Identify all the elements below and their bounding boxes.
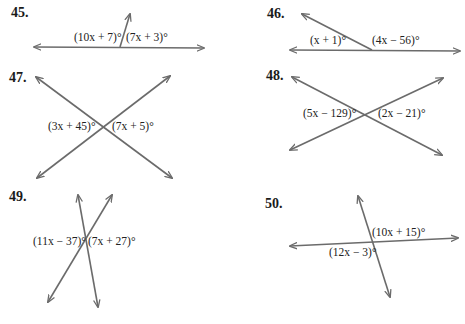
problem-number-49: 49.	[9, 189, 27, 205]
angle-label-46-left: (x + 1)°	[310, 34, 346, 46]
line-45-horizontal	[34, 47, 204, 48]
angle-label-45-right: (7x + 3)°	[126, 31, 168, 43]
figure-49	[48, 195, 112, 307]
angle-label-47-right: (7x + 5)°	[112, 120, 154, 132]
angle-label-48-right: (2x − 21)°	[378, 107, 426, 119]
problem-number-48: 48.	[266, 68, 284, 84]
angle-label-46-right: (4x − 56)°	[372, 34, 420, 46]
angle-label-49-right: (7x + 27)°	[88, 235, 136, 247]
line-49-a	[78, 195, 98, 307]
angle-label-50-lower: (12x − 3)°	[329, 246, 377, 258]
problem-number-45: 45.	[11, 5, 29, 21]
problem-number-46: 46.	[267, 6, 285, 22]
problem-number-50: 50.	[265, 196, 283, 212]
line-46-horizontal	[290, 50, 460, 51]
angle-label-47-left: (3x + 45)°	[48, 120, 96, 132]
figures-canvas	[0, 0, 465, 324]
angle-label-50-upper: (10x + 15)°	[372, 226, 425, 238]
problem-number-47: 47.	[9, 70, 27, 86]
line-49-b	[48, 195, 112, 302]
angle-label-48-left: (5x − 129)°	[303, 107, 356, 119]
angle-label-45-left: (10x + 7)°	[74, 31, 122, 43]
angle-label-49-left: (11x − 37)°	[33, 235, 86, 247]
